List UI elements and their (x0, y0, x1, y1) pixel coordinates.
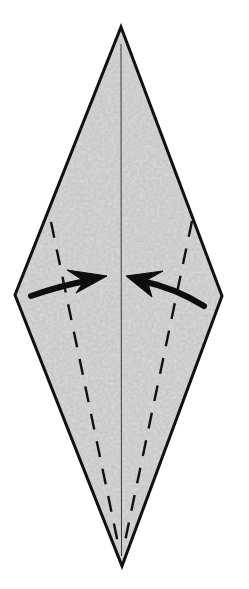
center-crease-line (121, 44, 122, 556)
origami-fold-diagram (0, 0, 249, 589)
